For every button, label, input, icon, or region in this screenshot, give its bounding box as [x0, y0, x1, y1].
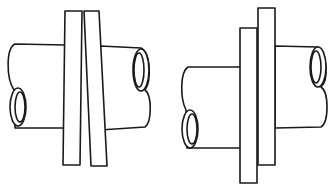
offset-plate-front-icon	[258, 8, 275, 165]
tapered-plate-right-icon	[84, 11, 107, 166]
right-pipe-left-icon	[182, 67, 241, 148]
right-pipe-right-icon	[275, 46, 327, 128]
left-figure	[8, 11, 150, 166]
left-pipe-right-icon	[100, 46, 150, 130]
tapered-plate-left-icon	[63, 11, 82, 165]
right-figure	[182, 8, 327, 183]
diagram-canvas	[0, 0, 333, 192]
left-pipe-left-icon	[8, 44, 66, 128]
offset-plate-back-icon	[240, 28, 257, 183]
